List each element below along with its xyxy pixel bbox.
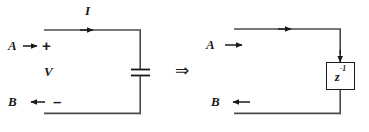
delay-block-z-inverse: z-1 xyxy=(326,62,355,90)
delay-block-exponent: -1 xyxy=(340,64,347,73)
terminal-b-label-left: B xyxy=(8,95,17,108)
implies-icon: ⇒ xyxy=(175,62,189,79)
figure-circuit-equivalence: I A + V B – ⇒ A B z-1 xyxy=(0,0,369,132)
terminal-a-label-right: A xyxy=(206,38,215,51)
current-label: I xyxy=(85,4,90,17)
voltage-label: V xyxy=(44,65,53,78)
minus-sign: – xyxy=(53,94,61,109)
delay-block-base: z xyxy=(335,70,340,85)
delay-block-label: z-1 xyxy=(335,70,347,83)
plus-sign: + xyxy=(42,38,51,53)
capacitor-icon xyxy=(131,70,150,76)
terminal-a-label-left: A xyxy=(8,39,17,52)
terminal-b-label-right: B xyxy=(211,95,220,108)
